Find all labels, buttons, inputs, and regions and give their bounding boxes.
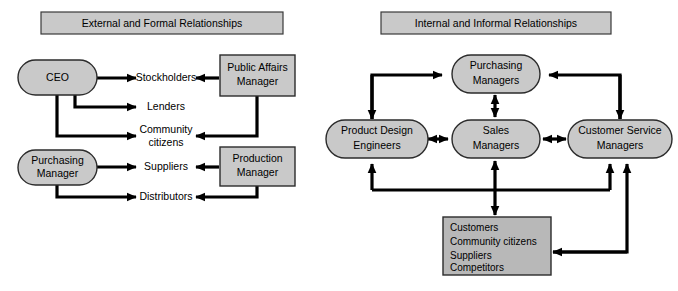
connector-purchasing-to-distributors [57, 185, 136, 197]
node-product-design-engineers-label-line1: Product Design [341, 124, 413, 136]
node-purchasing-managers-label-line2: Managers [473, 74, 520, 86]
panel-title-internal: Internal and Informal Relationships [415, 17, 577, 29]
connector-left-elbow-to-purchasing-managers [372, 75, 442, 119]
stakeholder-item-suppliers: Suppliers [450, 250, 492, 261]
panel-internal: Internal and Informal Relationships [326, 12, 672, 275]
node-sales-managers-label-line1: Sales [483, 124, 509, 136]
panel-external: External and Formal Relationships CEO [18, 12, 295, 202]
connector-ceo-to-community [57, 95, 136, 136]
stakeholder-item-community-citizens: Community citizens [450, 236, 537, 247]
node-sales-managers-label-line2: Managers [473, 139, 520, 151]
label-suppliers: Suppliers [144, 160, 188, 172]
connector-ceo-to-lenders [75, 95, 136, 107]
stakeholder-item-competitors: Competitors [450, 262, 504, 273]
panel-title-external: External and Formal Relationships [82, 17, 243, 29]
node-customer-service-managers-label-line1: Customer Service [578, 124, 662, 136]
node-purchasing-manager-label-line2: Manager [37, 167, 79, 179]
relationship-diagram: External and Formal Relationships CEO [0, 0, 678, 291]
node-customer-service-managers-label-line2: Managers [597, 139, 644, 151]
diagram-canvas: External and Formal Relationships CEO [0, 0, 678, 291]
label-distributors: Distributors [139, 190, 192, 202]
label-community-citizens-line1: Community [139, 123, 193, 135]
connector-stakeholders-to-customer-service [553, 164, 627, 252]
label-stockholders: Stockholders [136, 71, 197, 83]
connector-public-affairs-to-community [196, 96, 257, 136]
node-production-manager-label-line2: Manager [237, 166, 279, 178]
node-public-affairs-manager-label-line1: Public Affairs [227, 61, 288, 73]
connector-right-elbow-to-purchasing-managers [549, 75, 620, 119]
node-purchasing-managers-label-line1: Purchasing [470, 59, 523, 71]
label-lenders: Lenders [147, 100, 185, 112]
node-production-manager-label-line1: Production [232, 152, 282, 164]
node-ceo-label: CEO [46, 71, 69, 83]
stakeholder-item-customers: Customers [450, 222, 498, 233]
node-product-design-engineers-label-line2: Engineers [353, 139, 400, 151]
connector-production-to-distributors [196, 186, 257, 197]
node-purchasing-manager-label-line1: Purchasing [31, 154, 84, 166]
node-public-affairs-manager-label-line2: Manager [237, 75, 279, 87]
label-community-citizens-line2: citizens [148, 136, 183, 148]
